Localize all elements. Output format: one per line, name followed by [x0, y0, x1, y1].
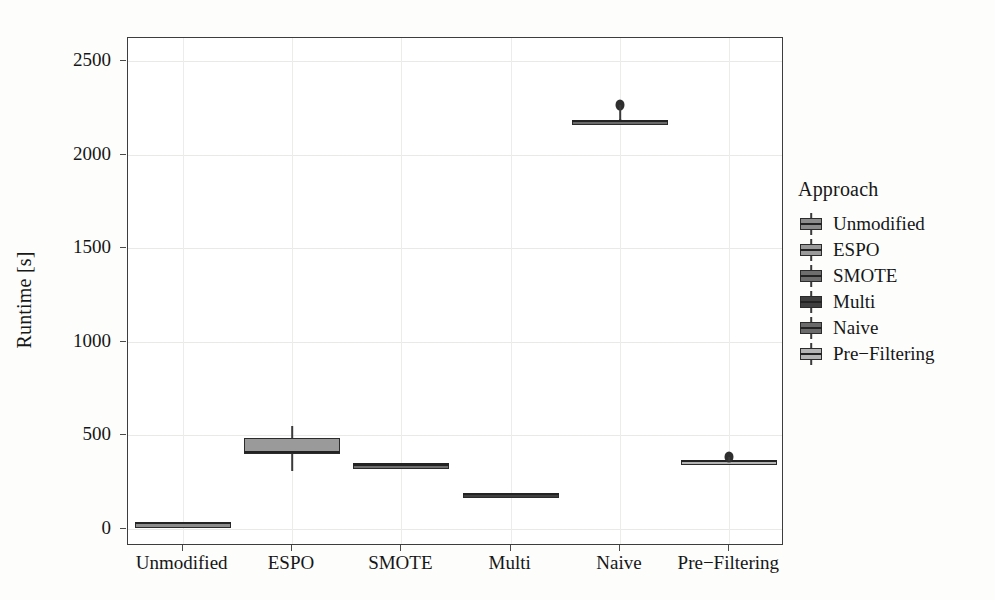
x-axis-tick-label: Naive [596, 552, 641, 574]
x-axis-tick-mark [728, 545, 729, 551]
legend-item-label: SMOTE [833, 265, 897, 287]
y-axis-tick-label: 500 [41, 423, 111, 445]
legend-item-label: Naive [833, 317, 878, 339]
legend-key-boxplot-icon [798, 264, 824, 288]
median-line [244, 451, 340, 453]
legend-item[interactable]: ESPO [798, 237, 988, 263]
legend-median [800, 353, 822, 355]
legend-median [800, 301, 822, 303]
boxplot-box-group [681, 38, 777, 544]
y-axis-tick-label: 0 [41, 517, 111, 539]
legend-item-label: Multi [833, 291, 875, 313]
boxplot-figure: Runtime [s] 05001000150020002500 Unmodif… [0, 0, 995, 600]
x-axis-tick-label: SMOTE [368, 552, 432, 574]
y-axis-tick-label: 2000 [41, 143, 111, 165]
legend-entries: UnmodifiedESPOSMOTEMultiNaivePre−Filteri… [798, 211, 988, 367]
x-axis-tick-label: Multi [489, 552, 531, 574]
plot-panel [127, 37, 783, 545]
x-axis-tick-mark [400, 545, 401, 551]
outlier-stem [729, 457, 731, 461]
y-axis-title: Runtime [s] [4, 0, 44, 600]
legend-median [800, 275, 822, 277]
y-axis-tick-label: 1500 [41, 236, 111, 258]
legend: Approach UnmodifiedESPOSMOTEMultiNaivePr… [798, 178, 988, 367]
legend-item[interactable]: Naive [798, 315, 988, 341]
boxplot-box-group [353, 38, 449, 544]
legend-item[interactable]: Multi [798, 289, 988, 315]
legend-key-boxplot-icon [798, 238, 824, 262]
x-axis-tick-label: Pre−Filtering [678, 552, 780, 574]
legend-item[interactable]: Pre−Filtering [798, 341, 988, 367]
legend-item[interactable]: Unmodified [798, 211, 988, 237]
legend-item[interactable]: SMOTE [798, 263, 988, 289]
legend-key-boxplot-icon [798, 316, 824, 340]
x-axis-tick-mark [619, 545, 620, 551]
legend-key-boxplot-icon [798, 342, 824, 366]
x-axis-tick-mark [510, 545, 511, 551]
median-line [463, 493, 559, 495]
y-axis-tick-label: 2500 [41, 49, 111, 71]
boxplot-box-group [244, 38, 340, 544]
legend-title: Approach [798, 178, 988, 201]
y-axis-tick-label: 1000 [41, 330, 111, 352]
y-axis-tick-mark [120, 247, 126, 248]
y-axis-tick-mark [120, 528, 126, 529]
median-line [353, 463, 449, 465]
boxplot-box-group [463, 38, 559, 544]
legend-item-label: Pre−Filtering [833, 343, 935, 365]
x-axis-tick-label: Unmodified [136, 552, 228, 574]
legend-item-label: Unmodified [833, 213, 925, 235]
legend-median [800, 223, 822, 225]
legend-item-label: ESPO [833, 239, 879, 261]
y-axis-tick-mark [120, 60, 126, 61]
whisker-lower [291, 454, 293, 471]
legend-key-boxplot-icon [798, 290, 824, 314]
outlier-stem [619, 105, 621, 120]
x-axis-tick-mark [291, 545, 292, 551]
y-axis-tick-mark [120, 341, 126, 342]
y-axis-tick-mark [120, 434, 126, 435]
median-line [135, 522, 231, 524]
legend-median [800, 327, 822, 329]
boxplot-box-group [135, 38, 231, 544]
legend-key-boxplot-icon [798, 212, 824, 236]
boxplot-box-group [572, 38, 668, 544]
x-axis-tick-mark [182, 545, 183, 551]
legend-median [800, 249, 822, 251]
x-axis-tick-label: ESPO [268, 552, 314, 574]
y-axis-tick-mark [120, 154, 126, 155]
whisker-upper [291, 426, 293, 438]
